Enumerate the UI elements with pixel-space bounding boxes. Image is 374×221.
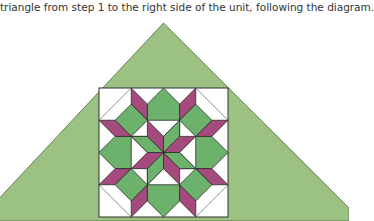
quilt-block bbox=[99, 88, 228, 217]
